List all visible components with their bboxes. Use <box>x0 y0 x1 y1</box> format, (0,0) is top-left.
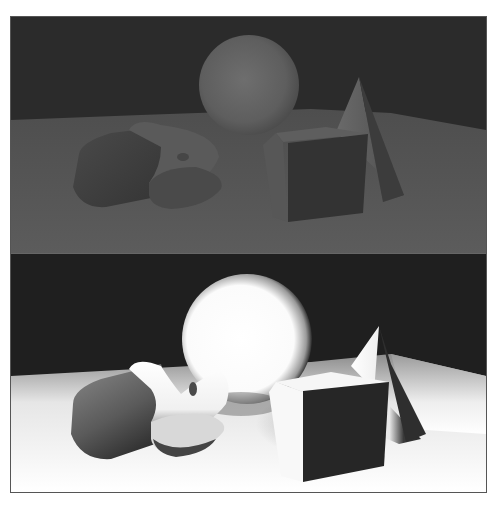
lit-scene <box>11 254 486 492</box>
dim-cube-front <box>288 134 368 222</box>
panel-lit-render <box>11 254 486 492</box>
panel-divider <box>11 253 486 254</box>
panel-dim-render <box>11 17 486 254</box>
dim-scene <box>11 17 486 254</box>
dim-torus-hole <box>177 153 189 161</box>
dim-sphere <box>199 35 299 135</box>
lit-cube-front <box>303 382 389 482</box>
render-comparison-figure <box>10 16 487 493</box>
lit-torus-hole <box>189 382 197 396</box>
